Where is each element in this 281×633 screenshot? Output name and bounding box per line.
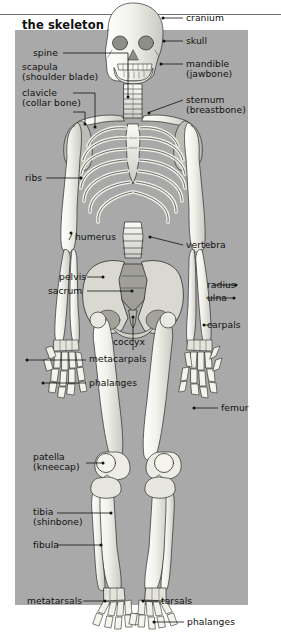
label-phalanges-hand: phalanges: [89, 378, 137, 389]
label-metatarsals: metatarsals: [27, 596, 82, 607]
label-spine: spine: [33, 48, 58, 59]
label-patella-alt: (kneecap): [33, 462, 80, 473]
label-skull: skull: [186, 36, 207, 47]
label-sacrum: sacrum: [48, 286, 82, 297]
label-tarsals: tarsals: [161, 596, 192, 607]
label-cranium: cranium: [186, 13, 224, 24]
label-ribs: ribs: [25, 173, 42, 184]
label-fibula: fibula: [33, 540, 59, 551]
label-coccyx: coccyx: [113, 337, 145, 348]
label-sternum-alt: (breastbone): [186, 105, 246, 116]
skeleton-diagram: the skeleton: [0, 0, 281, 633]
label-tibia-alt: (shinbone): [33, 517, 83, 528]
label-scapula-alt: (shoulder blade): [22, 72, 98, 83]
label-mandible-alt: (jawbone): [186, 69, 232, 80]
label-radius: radius: [207, 280, 236, 291]
label-ulna: ulna: [207, 293, 227, 304]
label-metacarpals: metacarpals: [89, 354, 147, 365]
label-pelvis: pelvis: [59, 272, 86, 283]
label-vertebra: vertebra: [186, 240, 226, 251]
label-phalanges-foot: phalanges: [187, 617, 235, 628]
label-clavicle-alt: (collar bone): [22, 98, 81, 109]
label-femur: femur: [221, 403, 249, 414]
label-carpals: carpals: [207, 320, 241, 331]
label-humerus: humerus: [75, 232, 116, 243]
